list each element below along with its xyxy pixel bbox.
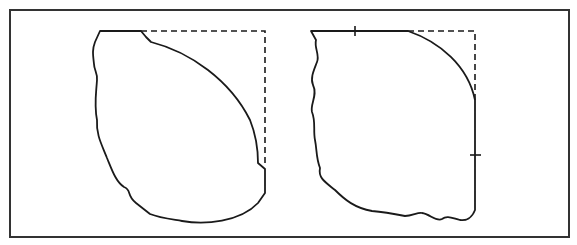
right-irregular-shape <box>311 31 475 220</box>
right-bounding-corner-dashed <box>408 31 475 100</box>
left-panel <box>93 31 265 223</box>
right-tick-marks <box>355 26 481 155</box>
left-bounding-corner-dashed <box>141 31 265 163</box>
figure-canvas <box>0 0 577 245</box>
right-panel <box>311 26 481 220</box>
left-irregular-shape <box>93 31 265 223</box>
